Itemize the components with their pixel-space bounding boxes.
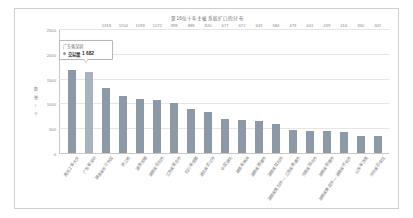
bar[interactable]: [68, 70, 76, 153]
x-axis-tick-label: 四川省成都: [182, 155, 198, 174]
bar-value-label: 1072: [153, 23, 162, 28]
x-axis-tick-label: 黑龙江省大庆: [61, 155, 79, 178]
bar[interactable]: [374, 136, 382, 153]
bar-value-label: 347: [374, 23, 381, 28]
x-axis-tick-label: 湖南省娄底市 — 湖南省怀化市: [316, 155, 351, 202]
bar-slot[interactable]: 441: [301, 29, 318, 153]
bar-value-label: 999: [171, 23, 178, 28]
y-axis-tick-label: 1000: [47, 102, 56, 107]
bar-value-label: 677: [222, 23, 229, 28]
bar-slot[interactable]: 439: [318, 29, 335, 153]
bar[interactable]: [119, 96, 127, 153]
x-axis-tick-label: 中国湖北: [219, 155, 233, 171]
x-axis-labels: 黑龙江省大庆广东省深圳湖南省长沙市区浙江杭湖南常德湖南省岳阳市江苏省南京市四川省…: [60, 155, 390, 207]
bar[interactable]: [272, 124, 280, 153]
y-axis-tick-label: 2500: [47, 28, 56, 33]
bar[interactable]: [221, 119, 229, 153]
x-axis-tick-label: 湖南常德: [134, 155, 148, 171]
bar-value-label: 1154: [119, 23, 128, 28]
bar[interactable]: [102, 88, 110, 153]
bar[interactable]: [357, 136, 365, 153]
x-axis-tick-label: 湖南省株洲: [233, 155, 249, 174]
y-axis-title: 数 量 / 个: [33, 87, 37, 116]
bar[interactable]: [204, 112, 212, 153]
bar-slot[interactable]: 1093: [132, 29, 149, 153]
bar[interactable]: [340, 132, 348, 153]
bar-value-label: 1318: [102, 23, 111, 28]
bar-value-label: 1093: [136, 23, 145, 28]
x-axis-tick-label: 浙江杭: [119, 155, 131, 168]
x-axis-tick-label: 湖南省益阳市: [265, 155, 283, 178]
bar-value-label: 350: [357, 23, 364, 28]
x-axis-tick-label: 广东省深圳: [80, 155, 96, 174]
tooltip-title: 广东省深圳: [63, 43, 109, 49]
bar-slot[interactable]: 999: [166, 29, 183, 153]
bar-value-label: 820: [205, 23, 212, 28]
bar-value-label: 643: [255, 23, 262, 28]
tooltip-value: 1 682: [82, 51, 94, 56]
bar-slot[interactable]: 347: [369, 29, 386, 153]
bar[interactable]: [170, 103, 178, 153]
bar-slot[interactable]: 888: [183, 29, 200, 153]
x-axis-tick-label: 湖南省衡阳市 — 江苏省南通市: [265, 155, 300, 202]
y-axis-tick-label: 500: [49, 127, 56, 132]
y-axis-tick-label: 1500: [47, 77, 56, 82]
bar-value-label: 888: [188, 23, 195, 28]
bar-slot[interactable]: 1072: [149, 29, 166, 153]
bar[interactable]: [306, 131, 314, 153]
chart-title: 第16位十年主被系统扩口的分布: [15, 15, 400, 21]
chart-tooltip: 广东省深圳 交易量 1 682: [59, 40, 113, 60]
tooltip-pointer-icon: [84, 59, 88, 62]
x-axis-tick-label: 湖南省湘潭市: [248, 155, 266, 178]
bar[interactable]: [85, 72, 93, 153]
bar-value-label: 441: [306, 23, 313, 28]
x-axis-tick-label: 河北省石家庄: [367, 155, 385, 178]
bar[interactable]: [187, 109, 195, 153]
x-axis-tick-label: 湖北省武汉市: [197, 155, 215, 178]
bar-slot[interactable]: 672: [234, 29, 251, 153]
chart-card: 第16位十年主被系统扩口的分布 数 量 / 个 0500100015002000…: [14, 8, 399, 209]
bar-slot[interactable]: 1154: [115, 29, 132, 153]
bar-slot[interactable]: 350: [352, 29, 369, 153]
bar[interactable]: [238, 120, 246, 153]
x-axis-tick-label: 湖南省岳阳市: [146, 155, 164, 178]
y-axis-tick-label: 2000: [47, 52, 56, 57]
bar-slot[interactable]: 677: [217, 29, 234, 153]
bar-slot[interactable]: 416: [335, 29, 352, 153]
bar-value-label: 584: [272, 23, 279, 28]
bar-value-label: 416: [340, 23, 347, 28]
tooltip-row: 交易量 1 682: [63, 51, 109, 57]
y-axis-tick-label: 0: [54, 152, 56, 157]
bar-value-label: 473: [289, 23, 296, 28]
bar-slot[interactable]: 643: [250, 29, 267, 153]
x-axis-tick-label: 山东省济南: [352, 155, 368, 174]
bar-slot[interactable]: 473: [284, 29, 301, 153]
x-axis-tick-label: 湖南省常德市: [316, 155, 334, 178]
bar[interactable]: [136, 99, 144, 153]
bar-slot[interactable]: 584: [267, 29, 284, 153]
bar-slot[interactable]: 820: [200, 29, 217, 153]
bar[interactable]: [153, 100, 161, 153]
bar[interactable]: [255, 121, 263, 153]
bar-value-label: 439: [323, 23, 330, 28]
bar[interactable]: [289, 130, 297, 153]
x-axis-tick-label: 河南省郑州市: [299, 155, 317, 178]
bar-value-label: 672: [239, 23, 246, 28]
x-axis-tick-label: 江苏省南京市: [163, 155, 181, 178]
screenshot-root: 第16位十年主被系统扩口的分布 数 量 / 个 0500100015002000…: [0, 0, 413, 218]
tooltip-series-label: 交易量: [68, 51, 80, 57]
series-color-dot-icon: [63, 52, 66, 55]
bar[interactable]: [323, 131, 331, 153]
